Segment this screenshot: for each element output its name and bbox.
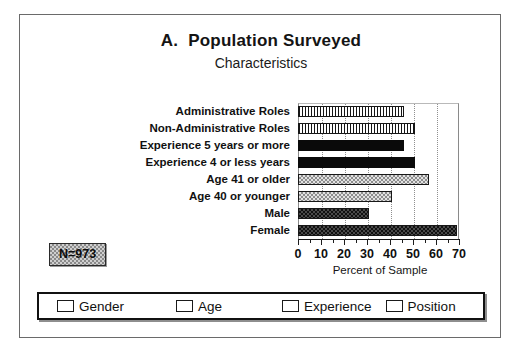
- x-axis-major-tick: [413, 239, 414, 245]
- sample-size-badge: N=973: [49, 243, 106, 266]
- legend-item-experience[interactable]: Experience: [282, 299, 372, 314]
- x-axis: [298, 239, 459, 247]
- x-axis-tick-label: 20: [337, 247, 351, 261]
- bar-experience: [298, 140, 404, 151]
- x-axis-minor-tick: [333, 239, 334, 243]
- chart-legend: GenderAgeExperiencePosition: [37, 292, 485, 320]
- legend-item-label: Age: [198, 299, 222, 314]
- y-axis-label: Male: [264, 205, 290, 222]
- y-axis-label: Administrative Roles: [176, 103, 290, 120]
- y-axis-label: Non-Administrative Roles: [149, 120, 290, 137]
- legend-item-label: Position: [408, 299, 456, 314]
- bar-gender: [298, 225, 457, 236]
- plot-area-wrapper: [298, 103, 459, 239]
- x-axis-minor-tick: [425, 239, 426, 243]
- x-axis-tick-label: 30: [360, 247, 374, 261]
- x-axis-minor-tick: [356, 239, 357, 243]
- legend-item-position[interactable]: Position: [386, 299, 456, 314]
- bar-row: [298, 222, 459, 239]
- x-axis-major-tick: [459, 239, 460, 245]
- bar-row: [298, 103, 459, 120]
- legend-item-label: Experience: [304, 299, 372, 314]
- chart-subtitle: Characteristics: [20, 55, 502, 71]
- y-axis-label: Age 40 or younger: [189, 188, 290, 205]
- title-panel-letter: A.: [161, 31, 178, 50]
- x-axis-tick-labels: 010203040506070: [290, 247, 470, 263]
- y-axis-label: Age 41 or older: [206, 171, 290, 188]
- legend-item-gender[interactable]: Gender: [57, 299, 124, 314]
- bar-row: [298, 137, 459, 154]
- bar-row: [298, 188, 459, 205]
- y-axis-label: Female: [250, 222, 290, 239]
- bar-position: [298, 106, 404, 117]
- bar-gender: [298, 208, 369, 219]
- bar-position: [298, 123, 415, 134]
- legend-swatch-icon: [282, 300, 299, 312]
- legend-swatch-icon: [386, 300, 403, 312]
- bar-row: [298, 154, 459, 171]
- page-title: A.Population Surveyed: [20, 31, 502, 51]
- x-axis-tick-label: 10: [314, 247, 328, 261]
- x-axis-major-tick: [367, 239, 368, 245]
- x-axis-tick-label: 50: [406, 247, 420, 261]
- x-axis-minor-tick: [310, 239, 311, 243]
- bar-age: [298, 191, 392, 202]
- legend-item-label: Gender: [79, 299, 124, 314]
- figure-frame: A.Population Surveyed Characteristics Ad…: [19, 14, 501, 338]
- x-axis-major-tick: [390, 239, 391, 245]
- legend-swatch-icon: [176, 300, 193, 312]
- legend-swatch-icon: [57, 300, 74, 312]
- x-axis-minor-tick: [448, 239, 449, 243]
- title-text: Population Surveyed: [188, 31, 361, 50]
- x-axis-tick-label: 0: [295, 247, 302, 261]
- x-axis-minor-tick: [379, 239, 380, 243]
- x-axis-major-tick: [344, 239, 345, 245]
- y-axis-label: Experience 5 years or more: [140, 137, 290, 154]
- legend-item-age[interactable]: Age: [176, 299, 222, 314]
- bar-row: [298, 205, 459, 222]
- x-axis-minor-tick: [402, 239, 403, 243]
- x-axis-tick-label: 60: [429, 247, 443, 261]
- bar-row: [298, 120, 459, 137]
- x-axis-tick-label: 70: [452, 247, 466, 261]
- x-axis-major-tick: [298, 239, 299, 245]
- x-axis-tick-label: 40: [383, 247, 397, 261]
- x-axis-major-tick: [436, 239, 437, 245]
- bar-experience: [298, 157, 415, 168]
- x-axis-major-tick: [321, 239, 322, 245]
- bar-age: [298, 174, 429, 185]
- x-axis-title: Percent of Sample: [290, 264, 470, 276]
- bar-row: [298, 171, 459, 188]
- y-axis-label: Experience 4 or less years: [146, 154, 291, 171]
- y-axis-category-labels: Administrative RolesNon-Administrative R…: [80, 103, 294, 239]
